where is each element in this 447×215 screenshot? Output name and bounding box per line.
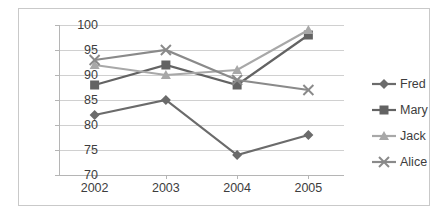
legend-item-mary[interactable]: Mary	[371, 97, 447, 123]
legend-label: Jack	[400, 129, 426, 143]
x-axis-tick-label: 2005	[278, 181, 338, 195]
y-axis-tick-label: 90	[64, 69, 98, 82]
y-axis-tick-label: 100	[64, 19, 98, 32]
legend-item-alice[interactable]: Alice	[371, 149, 447, 175]
legend-label: Alice	[400, 155, 427, 169]
y-axis-tick-label: 95	[64, 44, 98, 57]
series-plot	[59, 25, 344, 176]
y-axis-tick-label: 85	[64, 94, 98, 107]
square-marker-icon	[371, 103, 397, 117]
x-axis-tick-label: 2003	[136, 181, 196, 195]
series-fred	[90, 95, 314, 160]
y-axis-tick-label: 70	[64, 169, 98, 182]
legend-item-fred[interactable]: Fred	[371, 71, 447, 97]
cross-marker-icon	[371, 155, 397, 169]
series-mary	[90, 31, 313, 90]
series-jack	[90, 25, 314, 79]
chart-legend: FredMaryJackAlice	[371, 71, 447, 175]
x-axis-tick-label: 2004	[207, 181, 267, 195]
legend-label: Mary	[400, 103, 428, 117]
chart-frame: 100959085807570 2002200320042005 FredMar…	[18, 8, 430, 206]
legend-label: Fred	[400, 77, 426, 91]
y-axis-tick-label: 80	[64, 119, 98, 132]
plot-area	[59, 25, 344, 175]
triangle-marker-icon	[371, 129, 397, 143]
diamond-marker-icon	[371, 77, 397, 91]
legend-item-jack[interactable]: Jack	[371, 123, 447, 149]
x-axis-tick-label: 2002	[65, 181, 125, 195]
y-axis-tick-label: 75	[64, 144, 98, 157]
